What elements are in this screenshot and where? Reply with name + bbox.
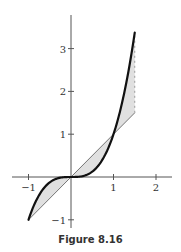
line-y-equals-x: [29, 113, 135, 220]
svg-text:1: 1: [60, 129, 66, 140]
svg-text:−1: −1: [51, 215, 66, 226]
svg-text:1: 1: [110, 182, 116, 193]
svg-text:2: 2: [153, 182, 159, 193]
figure-caption: Figure 8.16: [0, 234, 181, 245]
svg-text:−1: −1: [21, 182, 36, 193]
figure-plot: −112−1123: [0, 0, 181, 252]
svg-text:2: 2: [60, 86, 66, 97]
svg-text:3: 3: [60, 44, 66, 55]
shaded-area: [29, 33, 135, 220]
